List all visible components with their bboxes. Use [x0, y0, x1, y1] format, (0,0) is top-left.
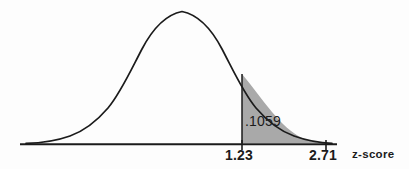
x-axis-tick-label-2-71: 2.71	[309, 148, 337, 162]
tail-area-label: .1059	[245, 114, 281, 128]
x-axis-title: z-score	[352, 149, 394, 161]
bell-curve-plot	[0, 0, 409, 169]
normal-density-curve	[26, 12, 332, 144]
normal-distribution-figure: .1059 1.23 2.71 z-score	[0, 0, 409, 169]
x-axis-tick-label-1-23: 1.23	[225, 148, 253, 162]
